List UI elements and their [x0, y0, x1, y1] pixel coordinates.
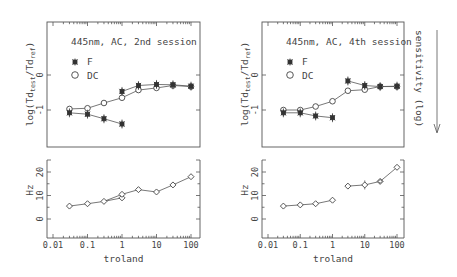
- x-axis-label: troland: [313, 253, 353, 264]
- panel-title: 445nm, AC, 4th session: [286, 36, 412, 47]
- x-axis-label: troland: [103, 253, 143, 264]
- x-tick-label: 0.01: [43, 240, 63, 250]
- x-tick-label: 10: [360, 240, 370, 250]
- y-axis-label: Hz: [239, 184, 250, 195]
- x-tick-label: 0.1: [80, 240, 95, 250]
- y-axis-label: Hz: [24, 184, 35, 195]
- y-tick-label: 10: [35, 190, 45, 200]
- right-sensitivity-panel: 0-1log(Tdtest/Tdref)445nm, AC, 4th sessi…: [239, 22, 412, 147]
- x-tick-label: 10: [151, 240, 161, 250]
- x-tick-label: 0.1: [293, 240, 308, 250]
- right-frequency-panel: 01020Hz0.010.1110100troland: [239, 160, 405, 264]
- figure: 0-1log(Tdtest/Tdref)445nm, AC, 2nd sessi…: [0, 0, 457, 277]
- legend-f: F: [302, 56, 308, 67]
- y-tick-label: -1: [250, 105, 260, 115]
- sensitivity-annotation: sensitivity (log): [414, 30, 440, 133]
- x-tick-label: 1: [119, 240, 124, 250]
- panel-title: 445nm, AC, 2nd session: [71, 36, 197, 47]
- x-tick-label: 0.01: [258, 240, 278, 250]
- x-tick-label: 100: [389, 240, 404, 250]
- legend-dc: DC: [302, 70, 313, 81]
- y-tick-label: 20: [35, 167, 45, 177]
- sensitivity-label: sensitivity (log): [414, 30, 425, 127]
- legend-dc: DC: [87, 70, 98, 81]
- x-tick-label: 100: [183, 240, 198, 250]
- y-tick-label: -1: [35, 105, 45, 115]
- y-tick-label: 0: [35, 216, 45, 221]
- y-tick-label: 20: [250, 167, 260, 177]
- x-tick-label: 1: [330, 240, 335, 250]
- y-tick-label: 10: [250, 190, 260, 200]
- left-frequency-panel: 01020Hz0.010.1110100troland: [24, 160, 200, 264]
- y-tick-label: 0: [250, 216, 260, 221]
- legend-f: F: [87, 56, 93, 67]
- left-sensitivity-panel: 0-1log(Tdtest/Tdref)445nm, AC, 2nd sessi…: [24, 22, 200, 147]
